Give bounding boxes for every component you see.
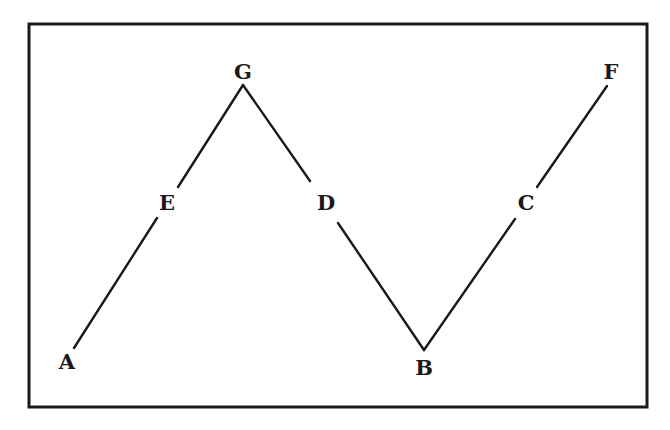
point-label-f: F [604,59,619,84]
point-label-e: E [159,190,175,215]
point-label-b: B [415,355,433,380]
segment-b-c [424,219,515,350]
point-label-a: A [58,349,76,374]
diagram-frame [29,24,647,407]
point-label-d: D [317,190,335,215]
zigzag-diagram: AEGDBCF [0,0,670,430]
segment-e-g [178,85,243,187]
point-label-c: C [518,190,535,215]
point-label-g: G [234,59,252,84]
point-labels: AEGDBCF [58,59,619,380]
segment-d-b [338,223,424,350]
segment-c-f [537,86,607,187]
line-segments [74,85,607,350]
segment-a-e [74,218,157,348]
segment-g-d [243,85,310,181]
